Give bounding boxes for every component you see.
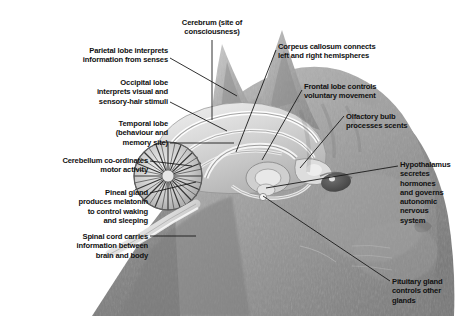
label-parietal-lobe: Parietal lobe interprets information fro…	[40, 46, 168, 65]
label-cerebellum: Cerebellum co-ordinates motor activity	[14, 156, 148, 175]
cat-brain-anatomy-figure: Parietal lobe interprets information fro…	[0, 0, 463, 316]
pituitary-gland	[259, 193, 266, 200]
label-spinal-cord: Spinal cord carries information between …	[16, 232, 148, 260]
label-occipital-lobe: Occipital lobe interprets visual and sen…	[52, 78, 168, 106]
label-pineal-gland: Pineal gland produces melatonin to contr…	[28, 188, 148, 225]
label-hypothalamus: Hypothalamus secretes hormones and gover…	[400, 160, 460, 225]
label-temporal-lobe: Temporal lobe (behaviour and memory site…	[56, 119, 168, 147]
hypothalamus	[257, 184, 275, 196]
label-olfactory-bulb: Olfactory bulb processes scents	[346, 112, 454, 131]
label-corpus-callosum: Corpeus callosum connects left and right…	[278, 42, 426, 61]
label-frontal-lobe: Frontal lobe controls voluntary movement	[304, 82, 426, 101]
label-pituitary-gland: Pituitary gland controls other glands	[392, 277, 462, 305]
label-cerebrum: Cerebrum (site of consciousness)	[160, 18, 264, 37]
